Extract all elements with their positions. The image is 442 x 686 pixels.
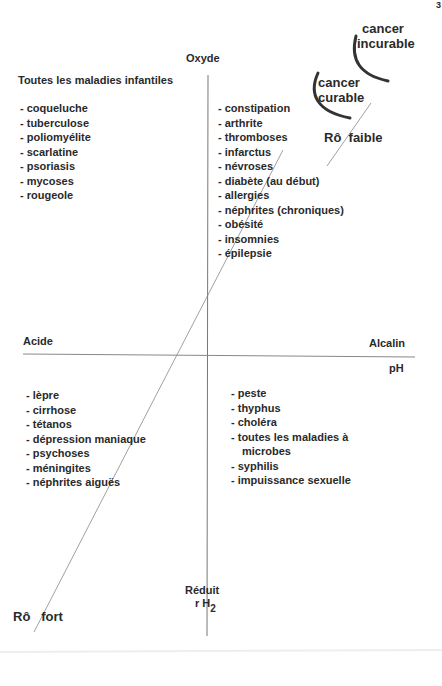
list-item: - diabète (au début)	[218, 174, 344, 189]
list-item: - coqueluche	[20, 101, 91, 116]
list-item: microbes	[231, 444, 351, 459]
list-item: - psoriasis	[20, 159, 91, 174]
list-bottom-right: - peste - thyphus - choléra - toutes les…	[231, 386, 351, 488]
list-item: - choléra	[231, 415, 351, 430]
list-item: - épilepsie	[218, 246, 344, 261]
list-item: - mycoses	[20, 174, 91, 189]
list-item: - méningites	[26, 461, 146, 476]
list-item: - cirrhose	[26, 403, 146, 418]
cancer-incurable-label: cancer incurable	[357, 21, 415, 51]
list-item: - névroses	[218, 159, 344, 174]
list-top-right: - constipation - arthrite - thromboses -…	[218, 101, 344, 261]
axis-label-reduit: Réduit	[185, 584, 219, 596]
list-item: - thromboses	[218, 130, 344, 145]
list-item: - impuissance sexuelle	[231, 473, 351, 488]
unit-rh-subscript: 2	[210, 603, 216, 614]
list-item: - néphrites (chroniques)	[218, 203, 344, 218]
list-item: - scarlatine	[20, 145, 91, 160]
list-top-left: - coqueluche - tuberculose - poliomyélit…	[20, 101, 91, 203]
list-item: - lèpre	[26, 388, 146, 403]
unit-rh: r H	[195, 597, 210, 609]
list-item: - rougeole	[20, 188, 91, 203]
list-item: - allergies	[218, 188, 344, 203]
list-item: - dépression maniaque	[26, 432, 146, 447]
list-item: - peste	[231, 386, 351, 401]
list-item: - néphrites aiguës	[26, 475, 146, 490]
list-item: - tétanos	[26, 417, 146, 432]
list-item: - thyphus	[231, 401, 351, 416]
list-item: - poliomyélite	[20, 130, 91, 145]
axis-label-ro-fort: Rô fort	[13, 609, 63, 624]
list-item: - psychoses	[26, 446, 146, 461]
list-item: - toutes les maladies à	[231, 430, 351, 445]
axis-label-oxyde: Oxyde	[186, 52, 220, 64]
list-item: - tuberculose	[20, 116, 91, 131]
page-marker: 3	[436, 0, 441, 10]
quadrant-title-infantiles: Toutes les maladies infantiles	[18, 74, 173, 86]
list-item: - obésité	[218, 217, 344, 232]
axis-unit-rh2: r H2	[195, 597, 216, 609]
horizontal-axis-ph	[23, 354, 415, 357]
list-item: - syphilis	[231, 459, 351, 474]
bottom-fold-line	[0, 650, 442, 652]
axis-label-acide: Acide	[23, 335, 53, 347]
list-item: - insomnies	[218, 232, 344, 247]
list-item: - constipation	[218, 101, 344, 116]
list-item: - infarctus	[218, 145, 344, 160]
axis-unit-ph: pH	[389, 362, 404, 374]
list-bottom-left: - lèpre - cirrhose - tétanos - dépressio…	[26, 388, 146, 490]
axis-label-alcalin: Alcalin	[369, 337, 405, 349]
list-item: - arthrite	[218, 116, 344, 131]
